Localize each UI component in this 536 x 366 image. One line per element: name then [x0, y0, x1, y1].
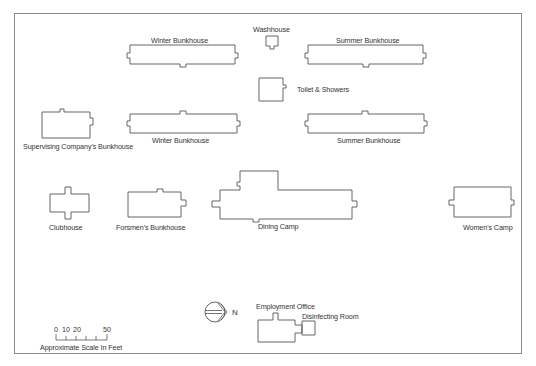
scale-tick-0: 0 [54, 325, 58, 334]
label-foremens-bunkhouse: Forsmen's Bunkhouse [116, 223, 185, 232]
label-summer-bunkhouse-2: Summer Bunkhouse [337, 136, 401, 145]
summer-bunkhouse-2-outline[interactable] [305, 111, 427, 133]
scale-tick-50: 50 [103, 325, 111, 334]
label-dining-camp: Dining Camp [258, 222, 298, 231]
toilet-showers-outline[interactable] [259, 78, 286, 101]
label-summer-bunkhouse-1: Summer Bunkhouse [336, 36, 400, 45]
label-supervising-bunkhouse: Supervising Company's Bunkhouse [23, 142, 133, 151]
label-winter-bunkhouse-2: Winter Bunkhouse [152, 136, 209, 145]
clubhouse-outline[interactable] [50, 187, 89, 219]
label-winter-bunkhouse-1: Winter Bunkhouse [151, 36, 208, 45]
foremens-bunkhouse-outline[interactable] [128, 189, 186, 217]
label-employment-office: Employment Office [256, 302, 315, 311]
dining-camp-outline[interactable] [212, 171, 357, 222]
label-toilet-showers: Toilet & Showers [297, 85, 349, 94]
label-disinfecting-room: Disinfecting Room [302, 312, 359, 321]
north-label: N [232, 308, 238, 317]
label-clubhouse: Clubhouse [49, 223, 82, 232]
employment-office-outline[interactable] [258, 313, 302, 342]
womens-camp-outline[interactable] [449, 187, 514, 217]
scale-caption: Approximate Scale In Feet [40, 343, 122, 352]
scale-bar [56, 334, 107, 340]
winter-bunkhouse-2-outline[interactable] [127, 111, 240, 133]
site-plan [0, 0, 536, 366]
label-washhouse: Washhouse [253, 25, 290, 34]
supervising-bunkhouse-outline[interactable] [42, 109, 93, 138]
scale-tick-10: 10 [62, 325, 70, 334]
winter-bunkhouse-1-outline[interactable] [127, 45, 238, 67]
scale-tick-20: 20 [73, 325, 81, 334]
washhouse-outline[interactable] [266, 36, 278, 49]
north-arrow-icon [205, 302, 227, 322]
summer-bunkhouse-1-outline[interactable] [305, 45, 426, 67]
disinfecting-room-outline[interactable] [302, 321, 315, 335]
label-womens-camp: Women's Camp [463, 223, 513, 232]
